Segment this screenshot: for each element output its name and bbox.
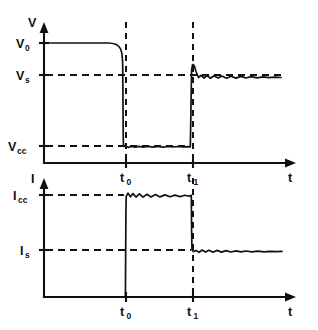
voltage-vcc-label-text: V	[8, 140, 17, 154]
current-t0-label-text: t	[120, 305, 125, 319]
voltage-t0-label: t 0	[120, 171, 132, 187]
voltage-chart: V V 0 V s V cc t 0 t 1	[8, 16, 296, 187]
current-t1-label: t 1	[187, 305, 199, 321]
current-is-label-sub: s	[25, 250, 30, 260]
current-time-axis-label-text: t	[288, 305, 293, 319]
voltage-v0-label-text: V	[16, 37, 25, 51]
waveform-figure: V V 0 V s V cc t 0 t 1	[0, 0, 318, 330]
current-t1-label-sub: 1	[194, 311, 199, 321]
voltage-vs-label: V s	[16, 69, 30, 85]
voltage-time-axis-label-text: t	[288, 171, 293, 185]
voltage-t0-label-sub: 0	[127, 177, 132, 187]
current-is-label: I s	[20, 244, 30, 260]
voltage-vcc-label: V cc	[8, 140, 27, 156]
current-y-axis-arrow	[40, 178, 49, 189]
current-time-axis-label: t	[288, 305, 293, 319]
current-axis-label: I	[31, 172, 34, 186]
current-x-axis-arrow	[285, 293, 296, 302]
voltage-t1-label-text: t	[187, 171, 192, 185]
voltage-v0-label: V 0	[16, 37, 30, 53]
current-axis-label-text: I	[31, 172, 34, 186]
voltage-axis-label-text: V	[28, 16, 37, 30]
voltage-t1-label-sub: 1	[194, 177, 199, 187]
voltage-vs-label-text: V	[16, 69, 25, 83]
voltage-vs-label-sub: s	[25, 75, 30, 85]
current-t1-label-text: t	[187, 305, 192, 319]
voltage-t0-label-text: t	[120, 171, 125, 185]
current-trace	[45, 193, 282, 297]
current-t0-label: t 0	[120, 305, 132, 321]
voltage-y-axis-arrow	[40, 22, 49, 33]
voltage-trace	[45, 43, 281, 147]
current-is-label-text: I	[20, 244, 23, 258]
current-icc-label-sub: cc	[18, 195, 28, 205]
voltage-vcc-label-sub: cc	[17, 146, 27, 156]
current-t0-label-sub: 0	[127, 311, 132, 321]
current-chart: I I cc I s t 0 t 1 t	[13, 172, 296, 321]
voltage-v0-label-sub: 0	[25, 43, 30, 53]
current-icc-label-text: I	[13, 189, 16, 203]
voltage-x-axis-arrow	[285, 159, 296, 168]
figure-root: V V 0 V s V cc t 0 t 1	[0, 0, 318, 330]
voltage-axis-label: V	[28, 16, 37, 30]
voltage-time-axis-label: t	[288, 171, 293, 185]
current-icc-label: I cc	[13, 189, 28, 205]
